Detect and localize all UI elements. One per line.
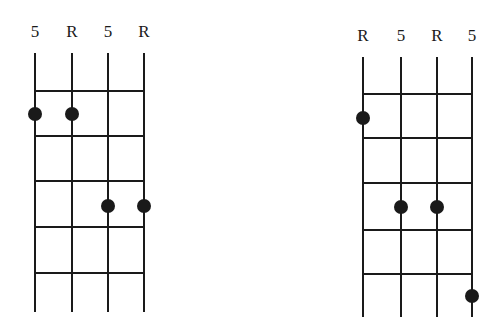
- finger-dot-icon: [28, 107, 42, 121]
- finger-dot-icon: [65, 107, 79, 121]
- string-label: 5: [397, 26, 406, 45]
- string-label: 5: [104, 22, 113, 41]
- string-label: R: [431, 26, 443, 45]
- string-label: R: [357, 26, 369, 45]
- finger-dot-icon: [101, 199, 115, 213]
- finger-dot-icon: [356, 111, 370, 125]
- string-label: R: [66, 22, 78, 41]
- finger-dot-icon: [394, 200, 408, 214]
- right-fretboard: R5R5: [356, 26, 479, 317]
- left-fretboard: 5R5R: [28, 22, 151, 312]
- string-label: 5: [468, 26, 477, 45]
- string-label: R: [138, 22, 150, 41]
- finger-dot-icon: [137, 199, 151, 213]
- chord-diagrams: 5R5RR5R5: [0, 0, 498, 333]
- string-label: 5: [31, 22, 40, 41]
- finger-dot-icon: [465, 289, 479, 303]
- finger-dot-icon: [430, 200, 444, 214]
